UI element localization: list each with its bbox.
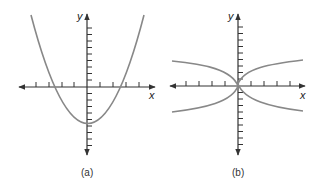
- figure-canvas: y x (a): [0, 0, 320, 183]
- x-axis-label-a: x: [148, 89, 155, 101]
- graph-a: y x (a): [19, 10, 155, 178]
- y-axis-label-a: y: [76, 10, 84, 22]
- caption-a: (a): [81, 167, 93, 178]
- caption-b: (b): [232, 167, 244, 178]
- y-axis-label-b: y: [227, 10, 235, 22]
- graph-b: y x (b): [170, 10, 306, 178]
- x-axis-label-b: x: [299, 89, 306, 101]
